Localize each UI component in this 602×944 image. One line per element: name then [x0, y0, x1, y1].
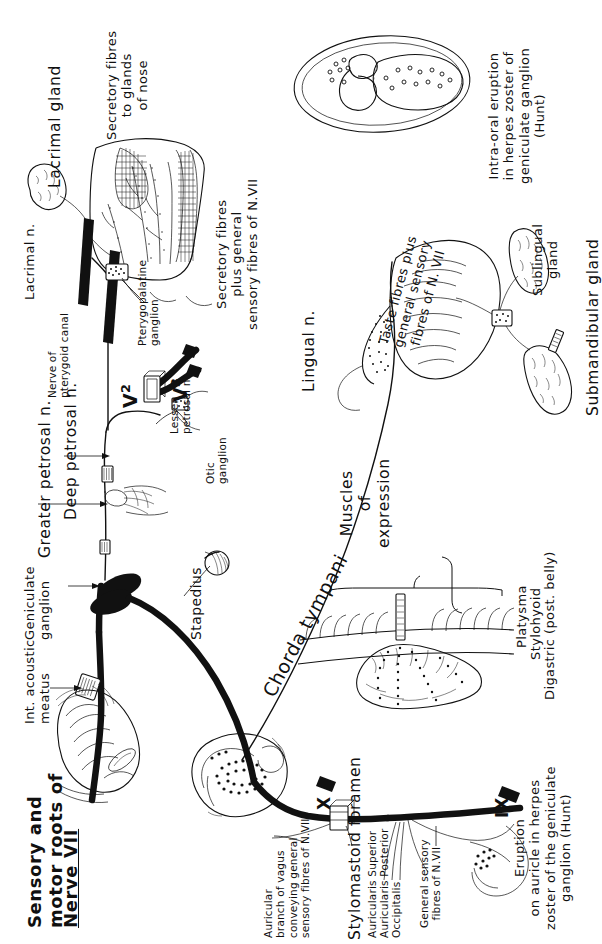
label-secretory-fibres-nose: Secretory fibres to glands of nose — [104, 31, 150, 140]
muscles-of-expression-brace — [330, 576, 502, 596]
label-auricularis-posterior: Auricularis Posterior — [378, 829, 390, 939]
motor-branches-brace — [442, 557, 462, 613]
label-auricularis-superior: Auricularis Superior — [366, 831, 378, 938]
intra-oral-eruption-drawing — [291, 30, 473, 138]
nerve-x-bar — [316, 776, 336, 792]
label-cranial-ix: IX — [492, 797, 512, 818]
styloid-process — [396, 594, 405, 640]
label-secretory-plus-general: Secretory fibres plus general sensory fi… — [214, 178, 260, 330]
label-lacrimal-gland: Lacrimal gland — [46, 65, 64, 188]
label-occipitalis: Occipitalis — [390, 882, 402, 938]
deep-petrosal-structure — [104, 486, 168, 515]
label-cranial-x: X — [314, 796, 334, 810]
label-lacrimal-n: Lacrimal n. — [22, 224, 37, 300]
label-stapedius: Stapedius — [188, 567, 205, 640]
label-pterygopalatine-ganglion: Pterygopalatine ganglion — [136, 260, 161, 346]
label-geniculate-ganglion: Geniculate ganglion — [22, 566, 53, 640]
facial-muscles — [298, 594, 514, 709]
label-deep-petrosal-n: Deep petrosal n. — [62, 382, 80, 520]
label-nerve-vii: Nerve VII — [60, 829, 81, 928]
label-v2: V2 — [118, 384, 142, 409]
submandibular-gland — [524, 329, 572, 414]
label-sublingual-gland: Sublingual gland — [530, 224, 561, 296]
label-nerve-of-pterygoid-canal: Nerve of pterygoid canal — [46, 313, 71, 398]
label-lesser-petrosal-n: Lesser petrosal n. — [168, 376, 193, 434]
label-intraoral-eruption: Intra-oral eruption in herpes zoster of … — [486, 48, 547, 184]
label-submandibular-gland: Submandibular gland — [584, 238, 602, 416]
submandibular-ganglion — [456, 276, 530, 350]
label-otic-ganglion: Otic ganglion — [204, 437, 229, 484]
label-auricular-branch-vagus: Auricular branch of vagus conveying gene… — [262, 818, 312, 938]
label-int-acoustic-meatus: Int. acoustic meatus — [22, 639, 53, 724]
label-eruption-auricle: Eruption on auricle in herpes zoster of … — [512, 766, 573, 930]
facial-nerve-diagram: Lacrimal gland Lacrimal n. Secretory fib… — [0, 0, 602, 944]
label-digastric: Digastric (post. belly) — [542, 551, 557, 700]
stapedius-muscle — [205, 551, 229, 575]
label-greater-petrosal-n: Greater petrosal n. — [36, 400, 54, 558]
label-stylomastoid-foramen: Stylomastoid foramen — [346, 757, 364, 940]
label-lingual-n: Lingual n. — [300, 310, 318, 392]
label-general-sensory-fibres: General sensory fibres of N.VII — [418, 839, 443, 928]
label-muscles-of-expression: Muscles of expression — [338, 458, 393, 548]
brainstem-pons — [56, 684, 140, 803]
post-auricular-branches — [384, 820, 514, 880]
platysma — [357, 645, 482, 709]
